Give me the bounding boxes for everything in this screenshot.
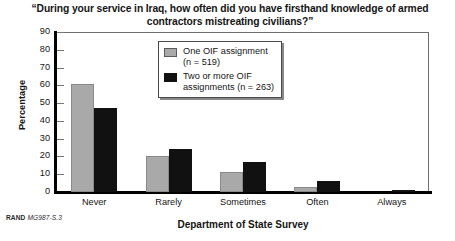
chart-figure: “During your service in Iraq, how often … xyxy=(0,0,455,241)
bar xyxy=(146,156,169,192)
y-axis-label: 80 xyxy=(22,45,50,54)
bar-group xyxy=(71,32,117,192)
y-axis-label: 0 xyxy=(22,187,50,196)
legend-label-one-oif: One OIF assignment (n = 519) xyxy=(183,46,268,68)
y-axis-label: 20 xyxy=(22,151,50,160)
y-axis-label: 40 xyxy=(22,116,50,125)
bar-group xyxy=(369,32,415,192)
bar xyxy=(71,84,94,192)
y-axis-label: 30 xyxy=(22,134,50,143)
bar-group xyxy=(294,32,340,192)
chart-title: “During your service in Iraq, how often … xyxy=(28,2,432,28)
x-axis-title: Department of State Survey xyxy=(57,219,429,230)
x-axis-category-label: Rarely xyxy=(129,197,209,207)
legend-swatch-gray xyxy=(164,48,177,57)
legend: One OIF assignment (n = 519) Two or more… xyxy=(158,41,282,98)
y-axis-label: 70 xyxy=(22,63,50,72)
x-axis-category-label: Never xyxy=(54,197,134,207)
legend-item-one-oif: One OIF assignment (n = 519) xyxy=(164,46,274,68)
bar xyxy=(220,172,243,192)
bar xyxy=(169,149,192,192)
x-axis-category-label: Sometimes xyxy=(203,197,283,207)
y-axis-label: 90 xyxy=(22,27,50,36)
bar xyxy=(243,162,266,192)
bar xyxy=(294,187,317,192)
source-code: MG987-S.3 xyxy=(27,214,62,221)
x-axis-category-label: Always xyxy=(352,197,432,207)
y-axis-label: 60 xyxy=(22,80,50,89)
legend-swatch-black xyxy=(164,73,177,82)
source-brand: RAND xyxy=(6,214,25,221)
y-axis-label: 10 xyxy=(22,169,50,178)
source-credit: RAND MG987-S.3 xyxy=(6,214,62,221)
legend-item-two-or-more-oif: Two or more OIF assignments (n = 263) xyxy=(164,71,274,93)
y-axis-label: 50 xyxy=(22,98,50,107)
bar xyxy=(317,181,340,192)
x-axis-category-label: Often xyxy=(277,197,357,207)
bar xyxy=(392,190,415,192)
bar xyxy=(94,108,117,192)
legend-label-two-or-more-oif: Two or more OIF assignments (n = 263) xyxy=(183,71,274,93)
